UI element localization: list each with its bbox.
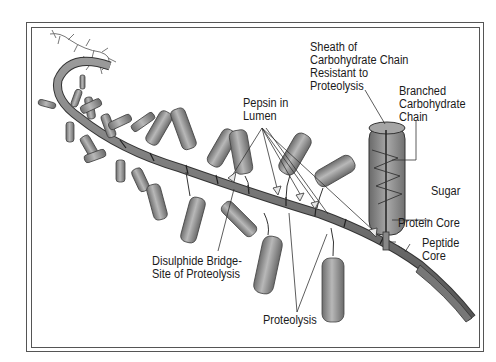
label-proteolysis: Proteolysis <box>263 314 317 327</box>
label-pepsin: Pepsin in Lumen <box>243 97 288 123</box>
label-branched-carbohydrate: Branched Carbohydrate Chain <box>399 85 466 124</box>
label-sugar: Sugar <box>431 185 460 198</box>
label-line: Chain <box>399 111 466 124</box>
label-line: Site of Proteolysis <box>152 268 242 281</box>
label-sheath: Sheath of Carbohydrate Chain Resistant t… <box>310 41 408 93</box>
label-disulphide-bridge: Disulphide Bridge- Site of Proteolysis <box>152 255 242 281</box>
mucin-illustration <box>0 0 496 362</box>
label-line: Proteolysis <box>310 80 408 93</box>
label-peptide-core: Peptide Core <box>422 237 459 263</box>
label-line: Lumen <box>243 110 288 123</box>
label-protein-core: Protein Core <box>398 217 460 230</box>
label-line: Core <box>422 250 459 263</box>
